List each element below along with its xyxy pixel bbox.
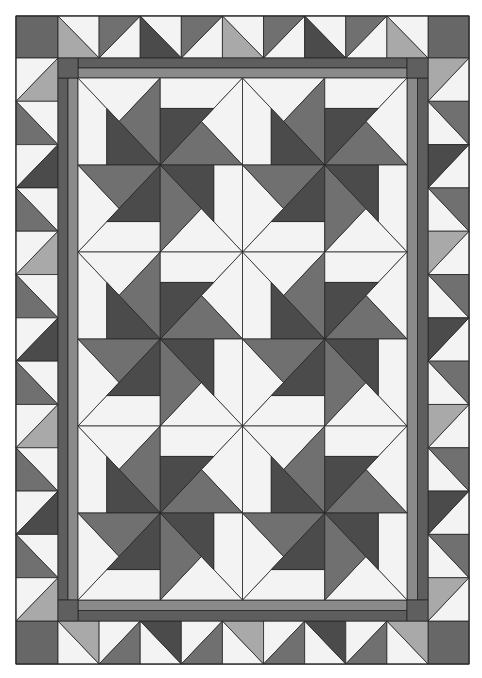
border-left-square bbox=[16, 145, 58, 188]
border-bottom-square bbox=[387, 621, 428, 664]
border-right-square bbox=[428, 448, 469, 491]
pinwheel-cell-tr bbox=[325, 78, 407, 165]
border-right-square bbox=[428, 231, 469, 274]
border-bottom-square bbox=[181, 621, 222, 664]
border-right-square bbox=[428, 275, 469, 318]
border-bottom-square bbox=[264, 621, 305, 664]
pinwheel-cell-tr bbox=[325, 426, 407, 513]
inner-border-top-outer-strip bbox=[78, 58, 407, 68]
border-bottom-square bbox=[346, 621, 387, 664]
pinwheel-center-field bbox=[78, 78, 407, 600]
border-left-square bbox=[16, 101, 58, 144]
inner-border-corner-top-right bbox=[407, 58, 428, 78]
border-left-square bbox=[16, 361, 58, 404]
pinwheel-cell-tl bbox=[243, 252, 325, 339]
inner-border-corner-bottom-right bbox=[407, 600, 428, 621]
pinwheel-cell-tl bbox=[78, 426, 160, 513]
border-right-square bbox=[428, 361, 469, 404]
border-bottom-square bbox=[305, 621, 346, 664]
border-right-square bbox=[428, 318, 469, 361]
pinwheel-cell-tr bbox=[160, 78, 242, 165]
border-bottom-square bbox=[99, 621, 140, 664]
pinwheel-cell-br bbox=[160, 513, 242, 600]
border-bottom-square bbox=[222, 621, 263, 664]
pinwheel-cell-bl bbox=[78, 513, 160, 600]
border-left-square bbox=[16, 188, 58, 231]
border-top-square bbox=[181, 16, 222, 58]
pinwheel-cell-bl bbox=[78, 165, 160, 252]
border-top-square bbox=[222, 16, 263, 58]
inner-border-bottom-inner-strip bbox=[78, 600, 407, 611]
inner-border-corner-bottom-left bbox=[58, 600, 78, 621]
border-right-square bbox=[428, 578, 469, 621]
pinwheel-cell-br bbox=[325, 165, 407, 252]
border-left-square bbox=[16, 58, 58, 101]
border-bottom-square bbox=[140, 621, 181, 664]
pinwheel-cell-tr bbox=[325, 252, 407, 339]
pinwheel-cell-tl bbox=[78, 252, 160, 339]
pinwheel-cell-bl bbox=[243, 339, 325, 426]
border-right-square bbox=[428, 491, 469, 534]
border-right-square bbox=[428, 101, 469, 144]
pinwheel-cell-br bbox=[160, 339, 242, 426]
pinwheel-cell-tl bbox=[78, 78, 160, 165]
inner-border-left-outer-strip bbox=[58, 78, 68, 600]
border-top-square bbox=[346, 16, 387, 58]
pinwheel-cell-tr bbox=[160, 252, 242, 339]
border-left-square bbox=[16, 534, 58, 577]
pinwheel-cell-br bbox=[325, 339, 407, 426]
border-top-square bbox=[264, 16, 305, 58]
border-bottom-square bbox=[58, 621, 99, 664]
pinwheel-cell-bl bbox=[78, 339, 160, 426]
border-right-square bbox=[428, 58, 469, 101]
pinwheel-cell-tl bbox=[243, 426, 325, 513]
inner-border-corner-top-left bbox=[58, 58, 78, 78]
pinwheel-cell-tl bbox=[243, 78, 325, 165]
border-right-square bbox=[428, 404, 469, 447]
pinwheel-cell-bl bbox=[243, 513, 325, 600]
border-left-square bbox=[16, 318, 58, 361]
border-top-square bbox=[58, 16, 99, 58]
border-top-square bbox=[99, 16, 140, 58]
border-left-square bbox=[16, 578, 58, 621]
border-top-square bbox=[140, 16, 181, 58]
border-left-square bbox=[16, 448, 58, 491]
corner-square-bottom-left bbox=[16, 621, 58, 664]
pinwheel-cell-bl bbox=[243, 165, 325, 252]
pinwheel-cell-br bbox=[325, 513, 407, 600]
pinwheel-cell-br bbox=[160, 165, 242, 252]
quilt-canvas bbox=[0, 0, 482, 678]
corner-square-bottom-right bbox=[428, 621, 469, 664]
border-top-square bbox=[387, 16, 428, 58]
quilt-illustration bbox=[0, 0, 482, 678]
border-right-square bbox=[428, 534, 469, 577]
corner-square-top-left bbox=[16, 16, 58, 58]
border-right-square bbox=[428, 145, 469, 188]
border-right-square bbox=[428, 188, 469, 231]
inner-border-bottom-outer-strip bbox=[78, 611, 407, 622]
corner-square-top-right bbox=[428, 16, 469, 58]
pinwheel-cell-tr bbox=[160, 426, 242, 513]
border-left-square bbox=[16, 275, 58, 318]
border-top-square bbox=[305, 16, 346, 58]
inner-border-right-inner-strip bbox=[407, 78, 418, 600]
border-left-square bbox=[16, 404, 58, 447]
border-left-square bbox=[16, 231, 58, 274]
inner-border-right-outer-strip bbox=[418, 78, 429, 600]
inner-border-top-inner-strip bbox=[78, 68, 407, 78]
inner-border-left-inner-strip bbox=[68, 78, 78, 600]
border-left-square bbox=[16, 491, 58, 534]
